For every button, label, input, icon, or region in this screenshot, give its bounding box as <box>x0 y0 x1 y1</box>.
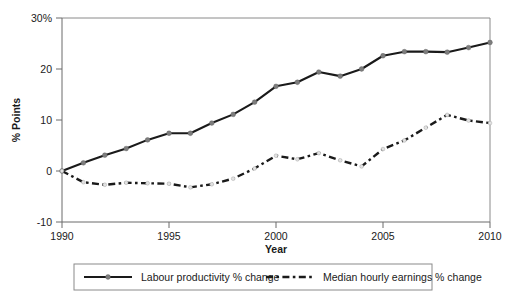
legend-label-labour-productivity: Labour productivity % change <box>141 271 279 283</box>
data-point <box>488 40 493 45</box>
data-point <box>167 131 172 136</box>
y-axis-title: % Points <box>10 98 22 142</box>
data-point <box>445 50 450 55</box>
data-point <box>102 153 107 158</box>
x-axis-ticks: 1990 1995 2000 2005 2010 <box>50 222 502 242</box>
data-point <box>424 126 428 130</box>
y-tick-label-10: 10 <box>40 114 52 126</box>
data-point <box>189 185 193 189</box>
data-point <box>274 154 278 158</box>
data-point <box>488 121 492 125</box>
x-tick-label-2005: 2005 <box>371 230 395 242</box>
x-tick-label-2000: 2000 <box>264 230 288 242</box>
line-chart: -10 0 10 20 30% 1990 1995 2000 2005 2010… <box>0 0 506 299</box>
data-point <box>60 169 64 173</box>
data-point <box>124 146 129 151</box>
data-point <box>252 100 257 105</box>
data-point <box>317 151 321 155</box>
data-point <box>209 121 214 126</box>
data-point <box>338 158 342 162</box>
data-point <box>103 183 107 187</box>
data-point <box>210 182 214 186</box>
legend: Labour productivity % change Median hour… <box>74 264 482 290</box>
axes <box>62 18 490 222</box>
y-tick-label--10: -10 <box>37 216 52 228</box>
series-layer <box>60 40 493 189</box>
series-line-0 <box>62 42 490 171</box>
data-point <box>467 119 471 123</box>
y-tick-label-30: 30% <box>31 12 52 24</box>
data-point <box>381 53 386 58</box>
data-point <box>316 70 321 75</box>
data-point <box>402 49 407 54</box>
data-point <box>188 131 193 136</box>
data-point <box>124 181 128 185</box>
data-point <box>381 147 385 151</box>
data-point <box>274 84 279 89</box>
x-tick-label-2010: 2010 <box>478 230 502 242</box>
data-point <box>296 157 300 161</box>
y-tick-label-0: 0 <box>46 165 52 177</box>
data-point <box>253 167 257 171</box>
data-point <box>145 137 150 142</box>
data-point <box>81 160 86 165</box>
data-point <box>231 177 235 181</box>
chart-container: -10 0 10 20 30% 1990 1995 2000 2005 2010… <box>0 0 506 299</box>
x-tick-label-1995: 1995 <box>157 230 181 242</box>
x-axis-title: Year <box>265 243 287 255</box>
data-point <box>146 181 150 185</box>
plot-frame <box>62 18 490 222</box>
data-point <box>423 49 428 54</box>
data-point <box>231 112 236 117</box>
data-point <box>295 80 300 85</box>
data-point <box>445 113 449 117</box>
legend-label-median-hourly-earnings: Median hourly earnings % change <box>323 271 482 283</box>
data-point <box>466 45 471 50</box>
data-point <box>403 139 407 143</box>
legend-marker-solid <box>106 275 111 280</box>
x-tick-label-1990: 1990 <box>50 230 74 242</box>
y-tick-label-20: 20 <box>40 63 52 75</box>
data-point <box>359 67 364 72</box>
data-point <box>82 180 86 184</box>
y-axis-ticks: -10 0 10 20 30% <box>31 12 62 228</box>
data-point <box>360 165 364 169</box>
data-point <box>167 182 171 186</box>
data-point <box>338 74 343 79</box>
